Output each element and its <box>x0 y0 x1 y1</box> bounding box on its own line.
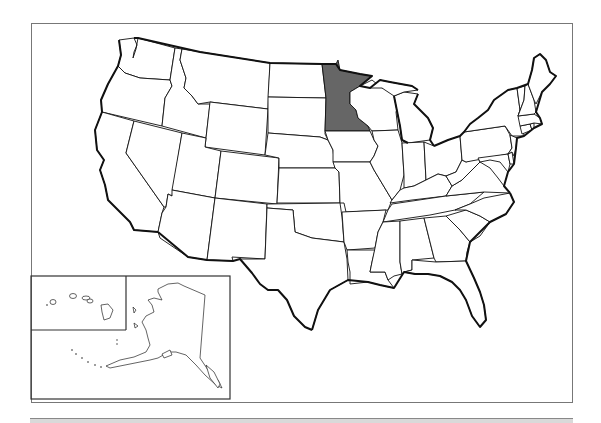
state-colorado[interactable] <box>215 151 279 204</box>
state-indiana[interactable] <box>402 142 426 188</box>
state-iowa[interactable] <box>325 131 378 162</box>
state-north-dakota[interactable] <box>268 63 326 98</box>
state-kansas[interactable] <box>277 168 340 203</box>
state-hawaii[interactable] <box>46 294 113 321</box>
state-wyoming[interactable] <box>205 102 268 155</box>
bottom-scroll-bar <box>30 418 573 423</box>
state-alaska[interactable] <box>71 283 222 388</box>
state-new-mexico[interactable] <box>207 198 267 261</box>
state-arizona[interactable] <box>158 190 215 260</box>
